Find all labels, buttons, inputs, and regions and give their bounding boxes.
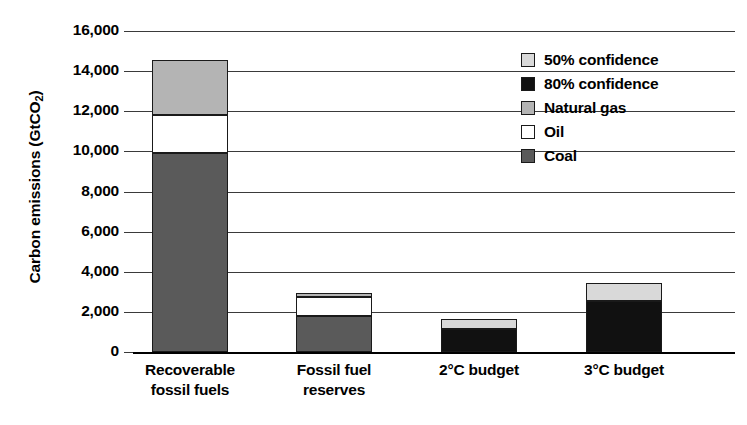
x-axis-tick-label-line: reserves <box>249 380 419 400</box>
bar-stack <box>152 60 228 352</box>
y-axis-tick-mark <box>124 71 133 72</box>
y-axis-tick-label: 8,000 <box>19 182 119 200</box>
legend-item[interactable]: Coal <box>521 144 658 167</box>
y-axis-tick-mark <box>124 352 133 353</box>
bar-group[interactable] <box>296 293 372 352</box>
legend-item-label: Coal <box>544 147 577 165</box>
bar-segment[interactable] <box>152 115 228 153</box>
legend: 50% confidence80% confidenceNatural gasO… <box>521 48 658 168</box>
legend-item[interactable]: Oil <box>521 120 658 143</box>
legend-item-label: Oil <box>544 123 564 141</box>
y-axis-tick-label: 0 <box>19 342 119 360</box>
y-axis-tick-label: 12,000 <box>19 101 119 119</box>
y-axis-tick-mark <box>124 192 133 193</box>
y-axis-tick-label: 14,000 <box>19 61 119 79</box>
bar-segment[interactable] <box>152 60 228 115</box>
y-axis-tick-mark <box>124 111 133 112</box>
y-axis-tick-label: 16,000 <box>19 21 119 39</box>
legend-item[interactable]: 50% confidence <box>521 48 658 71</box>
y-axis-tick-label: 2,000 <box>19 302 119 320</box>
y-axis-tick-mark <box>124 151 133 152</box>
bar-group[interactable] <box>586 283 662 352</box>
y-axis-tick-mark <box>124 272 133 273</box>
bar-stack <box>586 283 662 352</box>
legend-item[interactable]: Natural gas <box>521 96 658 119</box>
legend-swatch-icon <box>521 125 535 139</box>
legend-item-label: Natural gas <box>544 99 626 117</box>
legend-swatch-icon <box>521 149 535 163</box>
bar-segment[interactable] <box>296 316 372 352</box>
y-axis-tick-label: 4,000 <box>19 262 119 280</box>
legend-item-label: 50% confidence <box>544 51 658 69</box>
bar-segment[interactable] <box>586 283 662 300</box>
y-axis-tick-label: 6,000 <box>19 222 119 240</box>
bar-stack <box>296 293 372 352</box>
bar-segment[interactable] <box>152 153 228 352</box>
bar-segment[interactable] <box>296 297 372 316</box>
y-axis-tick-mark <box>124 31 133 32</box>
bar-segment[interactable] <box>586 301 662 352</box>
stacked-bar-chart: Carbon emissions (GtCO2) 02,0004,0006,00… <box>0 0 747 425</box>
y-axis-tick-label: 10,000 <box>19 141 119 159</box>
bar-stack <box>441 319 517 353</box>
y-axis-tick-mark <box>124 312 133 313</box>
bar-segment[interactable] <box>441 329 517 352</box>
legend-item-label: 80% confidence <box>544 75 658 93</box>
x-axis-tick-label-line: 3°C budget <box>539 360 709 380</box>
legend-swatch-icon <box>521 53 535 67</box>
bar-group[interactable] <box>152 60 228 352</box>
legend-item[interactable]: 80% confidence <box>521 72 658 95</box>
x-axis-tick-label: 3°C budget <box>539 360 709 380</box>
bar-segment[interactable] <box>296 293 372 298</box>
bar-segment[interactable] <box>441 319 517 329</box>
gridline <box>133 31 735 32</box>
legend-swatch-icon <box>521 101 535 115</box>
legend-swatch-icon <box>521 77 535 91</box>
y-axis-tick-mark <box>124 232 133 233</box>
x-axis-baseline <box>133 352 735 354</box>
bar-group[interactable] <box>441 319 517 353</box>
